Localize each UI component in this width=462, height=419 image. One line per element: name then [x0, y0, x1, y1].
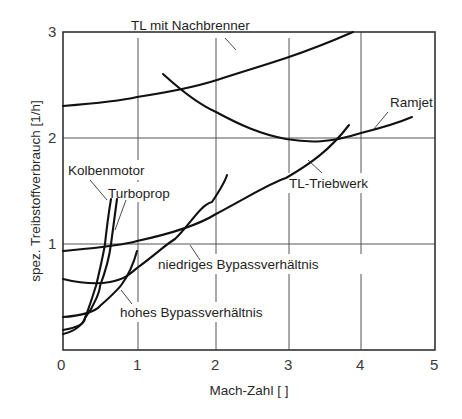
label-turboprop: Turboprop [108, 186, 170, 201]
leader-tl-triebwerk [308, 160, 322, 173]
y-axis-label: spez. Treibstoffverbrauch [1/h] [28, 100, 43, 281]
label-niedriges-bypass: niedriges Bypassverhältnis [158, 257, 319, 272]
x-axis-label: Mach-Zahl [ ] [210, 383, 289, 398]
sfc-mach-chart: TL mit Nachbrenner Ramjet TL-Triebwerk K… [0, 0, 462, 419]
x-ticks: 0 1 2 3 4 5 [57, 356, 438, 373]
y-ticks: 1 2 3 [48, 23, 56, 252]
x-tick-1: 1 [133, 356, 141, 373]
leader-tl-nachbrenner [225, 38, 236, 50]
y-tick-2: 2 [48, 129, 56, 146]
label-hohes-bypass: hohes Bypassverhältnis [120, 305, 263, 320]
y-tick-3: 3 [48, 23, 56, 40]
leader-hohes [121, 290, 132, 304]
label-kolbenmotor: Kolbenmotor [68, 163, 145, 178]
label-tl-nachbrenner: TL mit Nachbrenner [131, 18, 250, 33]
curve-tl-mit-nachbrenner [63, 32, 353, 106]
x-tick-4: 4 [356, 356, 364, 373]
label-tl-triebwerk: TL-Triebwerk [289, 176, 368, 191]
x-tick-5: 5 [430, 356, 438, 373]
curve-labels: TL mit Nachbrenner Ramjet TL-Triebwerk K… [68, 18, 433, 320]
x-tick-2: 2 [211, 356, 219, 373]
leader-kolbenmotor [90, 180, 107, 200]
x-tick-3: 3 [284, 356, 292, 373]
x-tick-0: 0 [57, 356, 65, 373]
y-tick-1: 1 [48, 235, 56, 252]
label-ramjet: Ramjet [390, 95, 433, 110]
curve-kolbenmotor [63, 199, 111, 334]
